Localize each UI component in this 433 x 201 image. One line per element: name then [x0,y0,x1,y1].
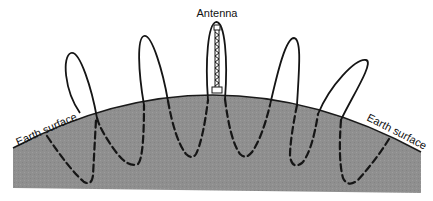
antenna-tip [214,25,220,30]
skywave-diagram: Antenna Earth surface Earth surface [0,0,433,201]
antenna-tower [212,25,222,93]
antenna-base [212,87,222,93]
antenna-label: Antenna [197,7,239,19]
